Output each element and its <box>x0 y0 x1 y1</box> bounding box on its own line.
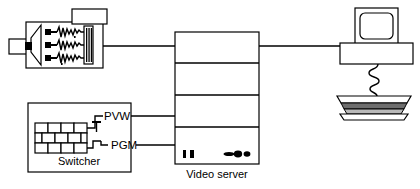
diagram-canvas: Switcher PVW PGM Video server <box>0 0 420 189</box>
port-label-pgm: PGM <box>111 139 137 151</box>
switcher-button-row-bottom <box>35 143 87 153</box>
port-label-pvw: PVW <box>104 110 130 122</box>
switcher-button-row-middle <box>35 133 87 143</box>
video-server-caption: Video server <box>186 168 248 180</box>
block-diagram: Switcher PVW PGM Video server <box>0 0 420 189</box>
computer-monitor-icon <box>337 8 413 120</box>
camera-icon <box>9 9 107 68</box>
monitor-screen <box>360 13 393 39</box>
keyboard-cable <box>369 64 379 96</box>
camera-module-stripes <box>86 28 92 62</box>
monitor-base-unit <box>340 43 413 64</box>
keyboard-icon <box>337 96 411 120</box>
switcher-button-row-top <box>35 123 87 133</box>
switcher-caption: Switcher <box>58 155 101 167</box>
video-server-icon: Video server <box>175 32 259 180</box>
